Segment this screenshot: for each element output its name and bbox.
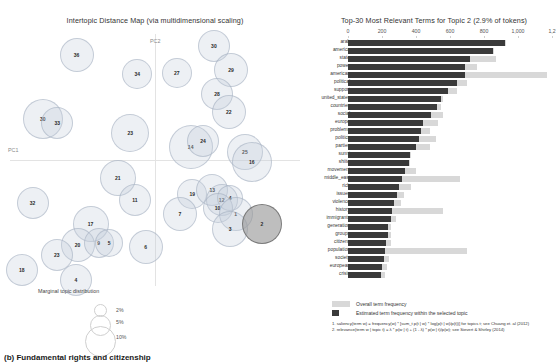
bar-row[interactable]: society <box>310 255 558 263</box>
topic-bubble-label-33: 33 <box>55 120 61 126</box>
bar-row[interactable]: groups <box>310 231 558 239</box>
topic-bubble-label-7: 7 <box>178 211 181 217</box>
bar-row[interactable]: population <box>310 247 558 255</box>
term-label-rich: rich <box>290 183 350 188</box>
x-axis-tickmark-800 <box>484 36 485 38</box>
bar-topic-groups <box>348 232 388 238</box>
bar-row[interactable]: european <box>310 263 558 271</box>
bar-topic-movement <box>348 168 405 174</box>
bar-track <box>348 128 552 134</box>
x-axis-tick-1000: 1,000 <box>512 28 525 34</box>
bar-topic-european <box>348 264 382 270</box>
term-label-europe: europe <box>290 119 350 124</box>
bar-row[interactable]: america <box>310 47 558 55</box>
term-label-arab: arab <box>290 39 350 44</box>
term-label-support: support <box>290 87 350 92</box>
bar-row[interactable]: generation <box>310 223 558 231</box>
bar-row[interactable]: citizens <box>310 239 558 247</box>
x-axis-tickmark-1000 <box>518 36 519 38</box>
legend-label-overall: Overall term frequency <box>356 301 407 307</box>
topic-bubble-label-16: 16 <box>249 159 255 165</box>
bar-topic-support <box>348 88 448 94</box>
bar-topic-rich <box>348 184 399 190</box>
bar-track <box>348 136 552 142</box>
term-label-state: state <box>290 55 350 60</box>
bar-track <box>348 168 552 174</box>
bar-row[interactable]: american <box>310 71 558 79</box>
bar-row[interactable]: parties <box>310 143 558 151</box>
bar-row[interactable]: social <box>310 111 558 119</box>
bar-row[interactable]: power <box>310 63 558 71</box>
term-label-generation: generation <box>290 223 350 228</box>
figure-caption: (b) Fundamental rights and citizenship <box>4 353 151 363</box>
bar-row[interactable]: middle_east <box>310 175 558 183</box>
bar-row[interactable]: shiite <box>310 159 558 167</box>
term-label-social: social <box>290 111 350 116</box>
bar-row[interactable]: issues <box>310 191 558 199</box>
term-label-problems: problems <box>290 127 350 132</box>
topic-bubble-label-20: 20 <box>75 242 81 248</box>
term-label-america: america <box>290 47 350 52</box>
term-label-immigrants: immigrants <box>290 215 350 220</box>
bar-row[interactable]: rich <box>310 183 558 191</box>
bar-row[interactable]: united_states <box>310 95 558 103</box>
bar-row[interactable]: violence <box>310 199 558 207</box>
bar-row[interactable]: history <box>310 207 558 215</box>
topic-bubble-label-4: 4 <box>75 277 78 283</box>
bar-row[interactable]: politics <box>310 135 558 143</box>
bar-row[interactable]: sunni <box>310 151 558 159</box>
bar-track <box>348 208 552 214</box>
topic-scatter-plot[interactable]: PC2 PC1 36342730292822303323142425162132… <box>0 28 310 293</box>
intertopic-distance-panel: Intertopic Distance Map (via multidimens… <box>0 0 310 360</box>
bar-track <box>348 232 552 238</box>
bar-row[interactable]: political <box>310 79 558 87</box>
bar-topic-europe <box>348 120 423 126</box>
bar-topic-political <box>348 80 457 86</box>
topic-bubble-label-23: 23 <box>127 130 133 136</box>
topic-bubble-label-27: 27 <box>174 70 180 76</box>
bar-track <box>348 200 552 206</box>
bar-row[interactable]: problems <box>310 127 558 135</box>
topic-bubble-label-22: 22 <box>226 109 232 115</box>
bar-track <box>348 48 552 54</box>
term-label-american: american <box>290 71 350 76</box>
bar-track <box>348 176 552 182</box>
bar-row[interactable]: arab <box>310 39 558 47</box>
bar-row[interactable]: immigrants <box>310 215 558 223</box>
bar-topic-state <box>348 56 470 62</box>
term-label-politics: politics <box>290 135 350 140</box>
bar-track <box>348 264 552 270</box>
marginal-topic-distribution-legend: Marginal topic distribution 2% 5% 10% <box>8 288 188 358</box>
topic-bubble-label-2: 2 <box>261 221 264 227</box>
bar-track <box>348 88 552 94</box>
bar-row[interactable]: countries <box>310 103 558 111</box>
bar-topic-countries <box>348 104 437 110</box>
pc2-axis-label: PC2 <box>150 38 161 44</box>
topic-bubble-label-32: 32 <box>30 200 36 206</box>
bar-row[interactable]: support <box>310 87 558 95</box>
term-label-european: european <box>290 263 350 268</box>
bar-track <box>348 64 552 70</box>
bar-track <box>348 112 552 118</box>
bar-track <box>348 96 552 102</box>
term-label-issues: issues <box>290 191 350 196</box>
bar-topic-middle_east <box>348 176 402 182</box>
term-label-citizens: citizens <box>290 239 350 244</box>
footnote-saliency: 1. saliency(term w) = frequency(w) * [su… <box>332 321 529 326</box>
term-label-middle_east: middle_east <box>290 175 350 180</box>
bar-topic-generation <box>348 224 388 230</box>
bar-row[interactable]: state <box>310 55 558 63</box>
term-label-united_states: united_states <box>290 95 350 100</box>
term-label-history: history <box>290 207 350 212</box>
bar-topic-arab <box>348 40 505 46</box>
top-terms-panel: Top-30 Most Relevant Terms for Topic 2 (… <box>310 0 558 360</box>
bar-row[interactable]: movement <box>310 167 558 175</box>
bar-row[interactable]: crisis <box>310 271 558 279</box>
bar-topic-citizens <box>348 240 386 246</box>
topic-bubble-label-34: 34 <box>135 71 141 77</box>
bar-rows-container: arabamericastatepoweramericanpoliticalsu… <box>310 39 558 279</box>
x-axis-tick-0: 0 <box>347 28 350 34</box>
bar-track <box>348 80 552 86</box>
bar-row[interactable]: europe <box>310 119 558 127</box>
